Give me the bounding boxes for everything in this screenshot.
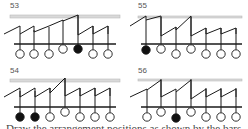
empty-circle-icon [76,113,84,121]
empty-circle-icon [61,108,69,116]
empty-circle-icon [106,113,114,121]
empty-circle-icon [232,50,240,58]
empty-circle-icon [157,45,165,53]
peg-diagram [124,60,248,120]
peg-diagram [0,60,124,120]
empty-circle-icon [172,50,180,58]
diagram-panel-56: 56 [124,60,248,120]
empty-circle-icon [59,45,67,53]
sawtooth-line [130,80,236,99]
diagram-panel-53: 53 [0,0,124,60]
peg-diagram [0,0,124,60]
filled-circle-icon [74,45,82,53]
filled-circle-icon [16,113,24,121]
peg-diagram [124,0,248,60]
empty-circle-icon [232,113,240,121]
empty-circle-icon [217,50,225,58]
empty-circle-icon [143,113,151,121]
empty-circle-icon [202,113,210,121]
empty-circle-icon [104,50,112,58]
caption-text: Draw the arrangement positions as shown … [0,122,248,129]
empty-circle-icon [187,45,195,53]
empty-circle-icon [202,50,210,58]
empty-circle-icon [187,108,195,116]
filled-circle-icon [31,113,39,121]
diagram-panel-54: 54 [0,60,124,120]
empty-circle-icon [91,113,99,121]
filled-circle-icon [172,114,180,122]
empty-circle-icon [46,113,54,121]
filled-circle-icon [142,46,150,54]
empty-circle-icon [45,50,53,58]
empty-circle-icon [217,113,225,121]
diagram-panel-55: 55 [124,0,248,60]
empty-circle-icon [16,50,24,58]
empty-circle-icon [157,108,165,116]
empty-circle-icon [30,50,38,58]
empty-circle-icon [89,50,97,58]
reference-bar [10,15,120,18]
